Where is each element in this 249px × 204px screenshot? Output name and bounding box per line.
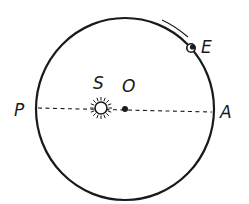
sun-icon xyxy=(90,97,112,119)
orbit-diagram: S O P A E xyxy=(0,0,249,204)
label-planet: E xyxy=(201,37,212,57)
label-center: O xyxy=(122,76,135,96)
label-sun: S xyxy=(93,73,104,93)
planet-icon xyxy=(187,44,195,52)
label-perihelion: P xyxy=(14,100,25,120)
center-dot xyxy=(122,106,128,112)
label-aphelion: A xyxy=(219,102,232,122)
